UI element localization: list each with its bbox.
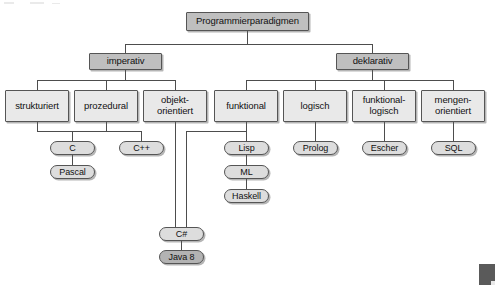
node-prozedural[interactable]: prozedural [74, 90, 138, 122]
edge-prozedural-bus [72, 131, 141, 132]
node-programmierparadigmen[interactable]: Programmierparadigmen [186, 12, 309, 31]
edge-funktional-jog-csharp [186, 131, 247, 132]
corner-marker-notch [491, 281, 495, 285]
edge-imperativ-to-prozedural [106, 80, 107, 90]
node-funktional[interactable]: funktional [214, 90, 278, 122]
scan-artifact [52, 3, 60, 4]
node-label: Programmierparadigmen [196, 16, 299, 27]
edge-to-c [72, 131, 73, 141]
edge-objektorientiert-to-csharp [175, 122, 176, 227]
node-label: Java 8 [169, 252, 195, 262]
edge-to-cpp [141, 131, 142, 141]
edge-csharp-to-java8 [181, 241, 182, 250]
node-label: prozedural [84, 101, 128, 112]
node-haskell[interactable]: Haskell [224, 189, 269, 203]
node-label: deklarativ [353, 56, 393, 67]
scan-artifact [30, 2, 44, 4]
edge-imperativ-stem [125, 70, 126, 80]
node-deklarativ[interactable]: deklarativ [336, 53, 409, 70]
node-label: logisch [301, 101, 330, 112]
node-label: funktional- logisch [363, 95, 406, 116]
node-label: Prolog [303, 143, 328, 153]
node-csharp[interactable]: C# [159, 227, 204, 241]
node-imperativ[interactable]: imperativ [89, 53, 162, 70]
scan-artifact [4, 2, 14, 4]
edge-ml-to-haskell [246, 179, 247, 189]
edge-imperativ-to-objektorientiert [175, 80, 176, 90]
node-c[interactable]: C [50, 141, 95, 155]
node-label: C [69, 143, 75, 153]
node-java8[interactable]: Java 8 [159, 250, 204, 264]
edge-c-to-pascal [72, 155, 73, 165]
node-funktional-logisch[interactable]: funktional- logisch [352, 90, 416, 122]
node-label: C++ [133, 143, 150, 153]
edge-root-to-deklarativ [372, 44, 373, 53]
edge-deklarativ-to-funktionallogisch [384, 80, 385, 90]
node-label: funktional [226, 101, 266, 112]
node-lisp[interactable]: Lisp [224, 141, 269, 155]
node-cpp[interactable]: C++ [119, 141, 164, 155]
edge-root-stem [247, 31, 248, 44]
edge-deklarativ-to-mengenorientiert [453, 80, 454, 90]
edge-funktional-to-lisp [246, 122, 247, 141]
edge-funktionallogisch-to-escher [384, 122, 385, 141]
corner-marker-icon [479, 264, 495, 285]
edge-imperativ-to-strukturiert [37, 80, 38, 90]
node-label: SQL [445, 143, 463, 153]
edge-root-to-imperativ [125, 44, 126, 53]
node-label: strukturiert [15, 101, 59, 112]
node-objekt-orientiert[interactable]: objekt- orientiert [143, 90, 207, 122]
edge-funktional-drop-csharp [186, 131, 187, 227]
node-mengen-orientiert[interactable]: mengen- orientiert [421, 90, 485, 122]
edge-deklarativ-to-logisch [315, 80, 316, 90]
edge-root-bus [125, 44, 373, 45]
node-label: ML [240, 167, 252, 177]
edge-deklarativ-bus [246, 80, 454, 81]
node-pascal[interactable]: Pascal [50, 165, 95, 179]
node-label: Lisp [238, 143, 254, 153]
edge-logisch-to-prolog [315, 122, 316, 141]
node-sql[interactable]: SQL [431, 141, 476, 155]
node-strukturiert[interactable]: strukturiert [5, 90, 69, 122]
edge-strukturiert-bus [37, 131, 72, 132]
node-prolog[interactable]: Prolog [293, 141, 338, 155]
node-label: objekt- orientiert [157, 95, 193, 116]
node-label: Haskell [232, 191, 261, 201]
edge-deklarativ-stem [372, 70, 373, 80]
edge-deklarativ-to-funktional [246, 80, 247, 90]
edge-strukturiert-stem [37, 122, 38, 131]
node-label: mengen- orientiert [435, 95, 472, 116]
node-label: Pascal [59, 167, 85, 177]
edge-mengenorientiert-to-sql [453, 122, 454, 141]
node-ml[interactable]: ML [224, 165, 269, 179]
node-label: Escher [371, 143, 398, 153]
edge-lisp-to-ml [246, 155, 247, 165]
diagram-canvas: Programmierparadigmen imperativ deklarat… [0, 0, 495, 285]
edge-prozedural-stem [106, 122, 107, 131]
node-logisch[interactable]: logisch [283, 90, 347, 122]
node-label: imperativ [107, 56, 145, 67]
node-escher[interactable]: Escher [362, 141, 407, 155]
node-label: C# [176, 229, 187, 239]
